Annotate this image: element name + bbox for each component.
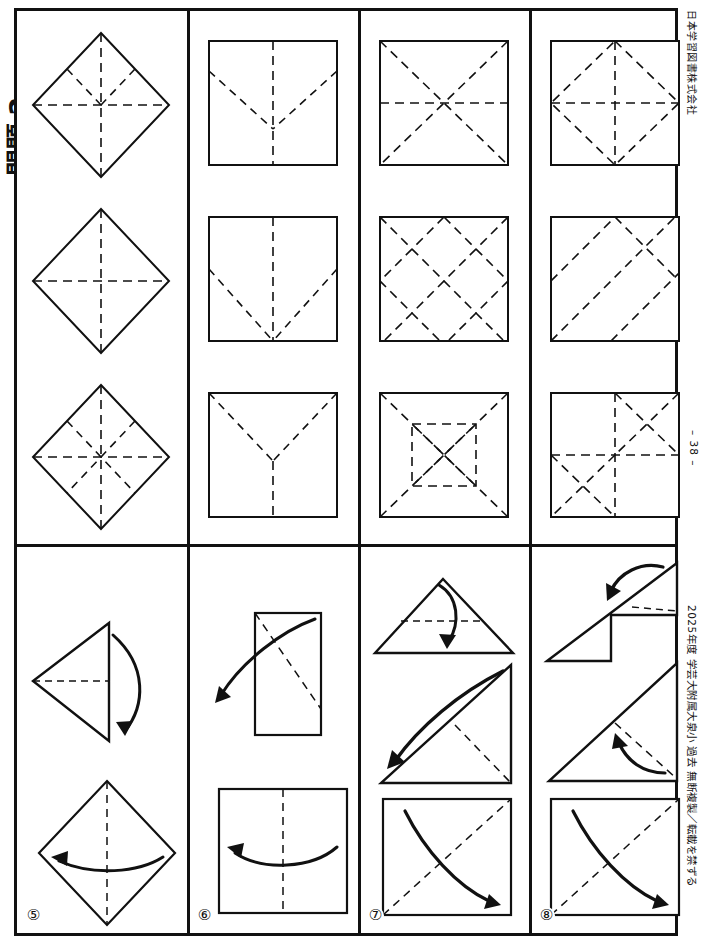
panel-p4-1 <box>544 33 686 173</box>
step-s7-1 <box>367 571 527 663</box>
block-divider <box>17 544 675 547</box>
column-divider-1 <box>187 11 190 933</box>
worksheet-frame: ⑤ ⑥ <box>14 8 678 936</box>
panel-p2-2 <box>202 209 344 349</box>
step-s5-2 <box>23 771 183 931</box>
page-title-fragment: 問題 2 <box>0 4 14 179</box>
panel-p1-2 <box>27 201 175 361</box>
panel-p3-3 <box>373 385 515 525</box>
panel-p3-2 <box>373 209 515 349</box>
step-s6-2 <box>197 771 357 921</box>
panel-p1-3 <box>27 377 175 537</box>
step-s6-1 <box>197 591 357 741</box>
step-number-6: ⑥ <box>196 907 213 924</box>
panel-p1-1 <box>27 25 175 185</box>
step-number-5: ⑤ <box>25 907 42 924</box>
step-s7-3 <box>367 791 527 921</box>
page-title-text: 問題 2 <box>0 98 14 176</box>
step-s8-2 <box>537 651 697 791</box>
publisher-name: 日本学習図書株式会社 <box>685 10 700 115</box>
step-s8-3 <box>537 791 697 921</box>
panel-p2-3 <box>202 385 344 525</box>
page-number: – 38 – <box>688 430 700 467</box>
step-number-8: ⑧ <box>538 907 555 924</box>
step-s7-2 <box>367 657 527 793</box>
column-divider-3 <box>529 11 532 933</box>
step-number-7: ⑦ <box>367 907 384 924</box>
panel-p3-1 <box>373 33 515 173</box>
panel-p2-1 <box>202 33 344 173</box>
panel-p4-3 <box>544 385 686 525</box>
panel-p4-2 <box>544 209 686 349</box>
step-s5-1 <box>23 611 183 751</box>
worksheet-page: 問題 2 日本学習図書株式会社 – 38 – 2025年度 学芸大附属大泉小 過… <box>0 0 713 945</box>
column-divider-2 <box>358 11 361 933</box>
